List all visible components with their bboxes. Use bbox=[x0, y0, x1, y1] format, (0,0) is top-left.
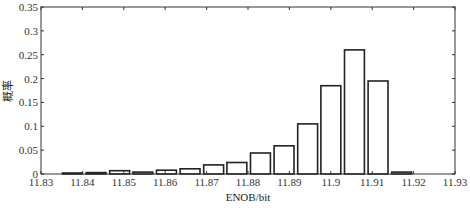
y-tick-label: 0.15 bbox=[19, 96, 39, 108]
y-axis-title: 概率 bbox=[1, 80, 14, 102]
y-tick-label: 0.1 bbox=[24, 120, 38, 132]
histogram-bar bbox=[274, 146, 294, 174]
x-axis-title: ENOB/bit bbox=[226, 191, 271, 203]
y-tick-label: 0.05 bbox=[19, 144, 39, 156]
y-axis-ticks: 00.050.10.150.20.250.30.35 bbox=[19, 1, 455, 180]
x-axis-ticks: 11.8311.8411.8511.8611.8711.8811.8911.91… bbox=[29, 7, 468, 188]
histogram-chart: 11.8311.8411.8511.8611.8711.8811.8911.91… bbox=[0, 0, 470, 208]
histogram-bar bbox=[298, 124, 318, 174]
x-tick-label: 11.89 bbox=[277, 176, 302, 188]
x-tick-label: 11.86 bbox=[153, 176, 178, 188]
x-tick-label: 11.85 bbox=[112, 176, 137, 188]
histogram-bar bbox=[157, 170, 177, 174]
plot-area-frame bbox=[41, 7, 455, 174]
y-tick-label: 0.35 bbox=[19, 1, 39, 13]
x-tick-label: 11.9 bbox=[321, 176, 340, 188]
histogram-bar bbox=[227, 163, 247, 175]
y-tick-label: 0 bbox=[33, 168, 39, 180]
histogram-bar bbox=[251, 153, 271, 174]
y-tick-label: 0.3 bbox=[24, 25, 38, 37]
y-tick-label: 0.2 bbox=[24, 73, 38, 85]
histogram-bar bbox=[368, 81, 388, 174]
histogram-bar bbox=[321, 86, 341, 174]
x-tick-label: 11.93 bbox=[443, 176, 468, 188]
x-tick-label: 11.91 bbox=[360, 176, 384, 188]
bars bbox=[63, 50, 412, 174]
y-tick-label: 0.25 bbox=[19, 49, 39, 61]
x-tick-label: 11.84 bbox=[70, 176, 95, 188]
x-tick-label: 11.87 bbox=[194, 176, 219, 188]
histogram-bar bbox=[180, 169, 200, 174]
histogram-bar bbox=[345, 50, 365, 174]
x-tick-label: 11.92 bbox=[401, 176, 425, 188]
x-tick-label: 11.88 bbox=[236, 176, 261, 188]
